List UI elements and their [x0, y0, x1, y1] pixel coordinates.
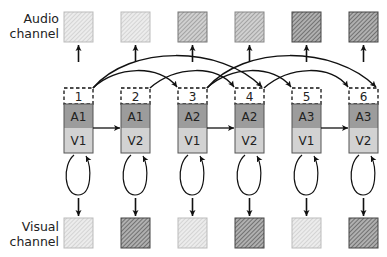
visual-output-square-6	[349, 218, 378, 248]
self-loop-arrow-2	[123, 155, 147, 195]
self-loop-arrow-1	[66, 155, 90, 195]
visual-output-square-1	[64, 218, 93, 248]
visual-state-5: V1	[299, 134, 315, 148]
column-6: 6 A3 V2	[349, 12, 378, 248]
state-number-3: 3	[189, 90, 197, 104]
visual-output-square-2	[121, 218, 150, 248]
state-number-5: 5	[303, 90, 311, 104]
visual-output-square-5	[292, 218, 321, 248]
audio-output-square-2	[121, 12, 150, 42]
visual-state-1: V1	[71, 134, 87, 148]
visual-output-square-4	[235, 218, 264, 248]
transition-arc-3-to-6	[207, 56, 376, 88]
state-number-4: 4	[246, 90, 254, 104]
column-1: 1 A1 V1	[64, 12, 93, 248]
transition-arc-1-to-3	[93, 71, 177, 88]
audio-state-1: A1	[71, 110, 87, 124]
audio-output-square-5	[292, 12, 321, 42]
visual-output-square-3	[178, 218, 207, 248]
visual-state-2: V2	[128, 134, 144, 148]
diagram-canvas: 1 A1 V1 2 A1 V2	[0, 0, 387, 257]
transition-arc-4-to-6	[264, 71, 348, 88]
audio-output-square-3	[178, 12, 207, 42]
column-5: 5 A3 V1	[292, 12, 321, 248]
self-loop-arrow-3	[180, 155, 204, 195]
visual-state-3: V1	[185, 134, 201, 148]
audio-state-4: A2	[242, 110, 258, 124]
audio-state-2: A1	[128, 110, 144, 124]
column-3: 3 A2 V1	[178, 12, 207, 248]
state-number-1: 1	[75, 90, 83, 104]
state-number-2: 2	[132, 90, 140, 104]
column-4: 4 A2 V2	[235, 12, 264, 248]
self-loop-arrow-5	[294, 155, 318, 195]
self-loop-arrow-4	[237, 155, 261, 195]
audio-state-3: A2	[185, 110, 201, 124]
column-2: 2 A1 V2	[121, 12, 150, 248]
transition-arc-3-to-5	[207, 71, 291, 88]
audio-visual-state-diagram: Audio channel Visual channel	[0, 0, 387, 257]
visual-state-6: V2	[356, 134, 372, 148]
state-number-6: 6	[360, 90, 368, 104]
audio-output-square-4	[235, 12, 264, 42]
transition-arc-2-to-4	[150, 71, 234, 88]
self-loop-arrow-6	[351, 155, 375, 195]
audio-state-6: A3	[356, 110, 372, 124]
audio-output-square-6	[349, 12, 378, 42]
visual-state-4: V2	[242, 134, 258, 148]
audio-state-5: A3	[299, 110, 315, 124]
audio-output-square-1	[64, 12, 93, 42]
